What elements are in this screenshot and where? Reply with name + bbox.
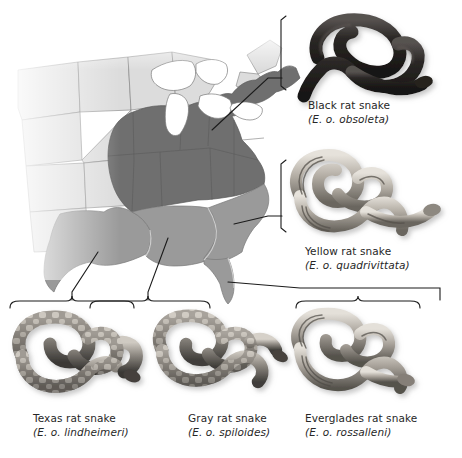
bracket-texas-rat-snake <box>10 296 134 308</box>
caption-gray-rat-snake: Gray rat snake (E. o. spiloides) <box>188 412 270 439</box>
bottom-brackets <box>10 296 420 308</box>
caption-everglades-rat-snake: Everglades rat snake (E. o. rossalleni) <box>305 412 417 439</box>
rat-snake-subspecies-figure: Black rat snake (E. o. obsoleta) Yellow … <box>0 0 462 458</box>
caption-yellow-rat-snake: Yellow rat snake (E. o. quadrivittata) <box>305 245 410 272</box>
leader-everglades-rat-snake <box>228 282 440 300</box>
specimen-everglades-rat-snake <box>297 314 416 388</box>
figure-canvas <box>0 0 462 458</box>
specimen-black-rat-snake <box>304 20 434 96</box>
common-name-everglades-rat-snake: Everglades rat snake <box>305 412 417 424</box>
caption-texas-rat-snake: Texas rat snake (E. o. lindheimeri) <box>33 412 129 439</box>
caption-black-rat-snake: Black rat snake (E. o. obsoleta) <box>308 99 390 126</box>
scientific-name-texas-rat-snake: (E. o. lindheimeri) <box>33 426 129 440</box>
common-name-texas-rat-snake: Texas rat snake <box>33 412 116 424</box>
scientific-name-black-rat-snake: (E. o. obsoleta) <box>308 113 390 127</box>
range-map <box>0 28 300 304</box>
bracket-gray-rat-snake <box>90 296 210 308</box>
common-name-yellow-rat-snake: Yellow rat snake <box>305 245 391 257</box>
specimen-yellow-rat-snake <box>296 155 442 231</box>
bracket-yellow-rat-snake <box>281 160 286 232</box>
specimen-gray-rat-snake <box>159 316 290 382</box>
common-name-black-rat-snake: Black rat snake <box>308 99 390 111</box>
bracket-everglades-rat-snake <box>296 296 420 308</box>
scientific-name-everglades-rat-snake: (E. o. rossalleni) <box>305 426 417 440</box>
scientific-name-yellow-rat-snake: (E. o. quadrivittata) <box>305 259 410 273</box>
specimen-texas-rat-snake <box>19 317 143 386</box>
scientific-name-gray-rat-snake: (E. o. spiloides) <box>188 426 270 440</box>
common-name-gray-rat-snake: Gray rat snake <box>188 412 267 424</box>
